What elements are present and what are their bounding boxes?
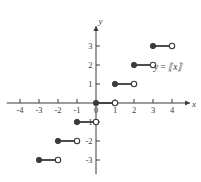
x-tick-label: -1 (73, 105, 80, 115)
x-tick-label: -4 (16, 105, 24, 115)
y-tick-label: 3 (88, 41, 92, 51)
open-endpoint-dot (131, 81, 136, 86)
function-label-equals: = (158, 62, 168, 72)
open-endpoint-dot (55, 157, 60, 162)
x-tick-label: -3 (35, 105, 42, 115)
greatest-integer-function-figure: -4-3-2-101234321-1-2-3 xyy = ⟦x⟧ (0, 0, 201, 182)
x-tick-label: -2 (54, 105, 61, 115)
function-label: y = ⟦x⟧ (153, 62, 184, 72)
y-tick-label: -3 (85, 155, 92, 165)
x-tick-label: 1 (113, 105, 117, 115)
open-endpoint-dot (74, 138, 79, 143)
plot-background (0, 0, 201, 182)
x-tick-label: 0 (94, 105, 98, 115)
open-endpoint-dot (169, 43, 174, 48)
closed-endpoint-dot (74, 119, 79, 124)
y-axis-name: y (98, 16, 103, 26)
y-tick-label: -2 (85, 136, 92, 146)
open-endpoint-dot (93, 119, 98, 124)
closed-endpoint-dot (93, 100, 98, 105)
x-tick-label: 3 (151, 105, 155, 115)
open-endpoint-dot (112, 100, 117, 105)
closed-endpoint-dot (150, 43, 155, 48)
closed-endpoint-dot (55, 138, 60, 143)
closed-endpoint-dot (36, 157, 41, 162)
function-label-expression: ⟦x⟧ (168, 62, 183, 72)
x-axis-name: x (191, 99, 196, 109)
closed-endpoint-dot (131, 62, 136, 67)
y-tick-label: 1 (88, 79, 92, 89)
closed-endpoint-dot (112, 81, 117, 86)
y-tick-label: 2 (88, 60, 92, 70)
x-tick-label: 2 (132, 105, 136, 115)
plot-canvas: -4-3-2-101234321-1-2-3 xyy = ⟦x⟧ (0, 0, 201, 182)
